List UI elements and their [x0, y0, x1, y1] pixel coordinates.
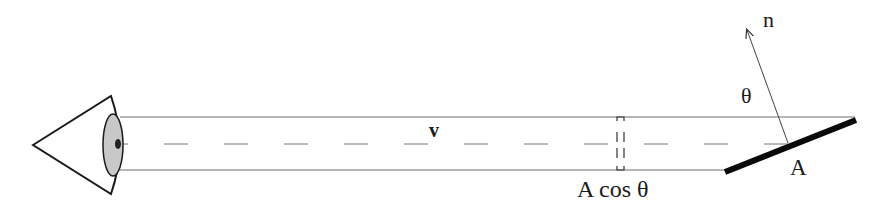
diagram-canvas	[0, 0, 886, 213]
area-label: A	[790, 156, 807, 179]
view-vector-label: v	[429, 120, 439, 140]
projected-area-label: A cos θ	[577, 177, 649, 201]
angle-label: θ	[741, 85, 752, 107]
projected-area-marker	[617, 117, 624, 170]
eye-icon	[33, 96, 123, 194]
normal-vector-arrow	[747, 30, 788, 143]
normal-label: n	[763, 9, 774, 31]
